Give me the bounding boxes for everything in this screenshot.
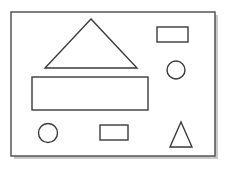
shapes-canvas: Large triangleLarge rectangleSmall recta… xyxy=(0,0,230,169)
geometric-shapes-figure: Large triangleLarge rectangleSmall recta… xyxy=(0,0,230,169)
outer-frame xyxy=(11,12,215,156)
